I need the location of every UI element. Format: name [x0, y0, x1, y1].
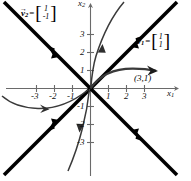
x-axis-label-sub: 1: [171, 91, 174, 98]
y-tick-label-neg1: -1: [77, 102, 85, 111]
x-tick-label-2: 2: [124, 92, 129, 101]
v2-equals: =: [29, 9, 34, 18]
y-axis-label: x2: [78, 0, 85, 9]
trajectory-upper: [91, 2, 124, 88]
v1-equals: =: [145, 37, 150, 46]
v2-component-2: -1: [43, 13, 50, 21]
v2-matrix-column: 1 -1: [42, 5, 51, 22]
x-tick-label-1: 1: [106, 92, 111, 101]
y-tick-label-1: 1: [80, 66, 85, 75]
v2-bracket-right: ]: [50, 6, 56, 20]
y-tick-label-neg3: -3: [77, 138, 85, 147]
point-label-3-1: (3,1): [134, 74, 151, 83]
x-tick-label-neg3: -3: [31, 92, 39, 101]
v1-bracket-right: ]: [164, 34, 170, 48]
y-axis-label-sub: 2: [82, 1, 85, 8]
v1-component-2: 1: [159, 41, 163, 49]
v2-symbol: →v2: [21, 9, 28, 19]
x-tick-label-neg2: -2: [49, 92, 57, 101]
x-axis-label: x1: [167, 89, 174, 99]
v1-vector-arrow-icon: →: [136, 34, 143, 41]
eigenvector-label-v2: →v2 = [ 1 -1 ]: [21, 5, 57, 22]
v1-symbol: →v1: [137, 37, 144, 47]
plot-canvas: [0, 0, 191, 181]
v2-matrix: [ 1 -1 ]: [35, 5, 56, 22]
y-tick-label-neg2: -2: [77, 120, 85, 129]
v1-matrix: [ 1 1 ]: [151, 33, 170, 50]
x-tick-label-neg1: -1: [67, 92, 75, 101]
eigenvector-label-v1: →v1 = [ 1 1 ]: [137, 33, 170, 50]
v2-vector-arrow-icon: →: [20, 6, 27, 13]
x-tick-label-3: 3: [142, 92, 147, 101]
phase-portrait-figure: -3 -2 -1 1 2 3 3 2 1 -1 -2 -3 x1 x2 →v2 …: [0, 0, 191, 181]
y-tick-label-2: 2: [80, 48, 85, 57]
y-tick-label-3: 3: [80, 30, 85, 39]
